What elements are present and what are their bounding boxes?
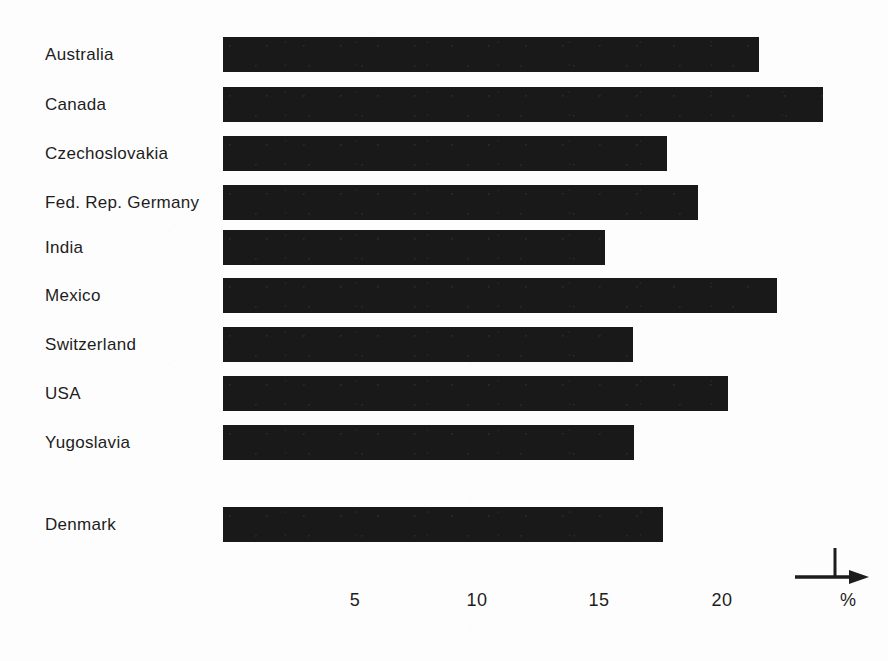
category-label-india: India [45, 230, 83, 265]
category-label-czechoslovakia: Czechoslovakia [45, 136, 168, 171]
chart-row: Czechoslovakia [0, 136, 888, 171]
chart-row: Mexico [0, 278, 888, 313]
x-axis-arrow-icon [793, 546, 875, 590]
bar-usa [223, 376, 728, 411]
bar-india [223, 230, 605, 265]
bar-denmark [223, 507, 663, 542]
x-axis-unit-label: % [828, 590, 868, 611]
category-label-australia: Australia [45, 37, 114, 72]
category-label-canada: Canada [45, 87, 106, 122]
category-label-mexico: Mexico [45, 278, 101, 313]
chart-row: Australia [0, 37, 888, 72]
chart-row: Yugoslavia [0, 425, 888, 460]
category-label-fed-rep-germany: Fed. Rep. Germany [45, 185, 199, 220]
plot-area: Australia Canada Czechoslovakia Fed. Rep… [0, 0, 888, 661]
chart-row: Fed. Rep. Germany [0, 185, 888, 220]
bar-czechoslovakia [223, 136, 667, 171]
x-tick-label-20: 20 [692, 590, 752, 611]
bar-mexico [223, 278, 777, 313]
bar-switzerland [223, 327, 633, 362]
x-tick-label-5: 5 [325, 590, 385, 611]
category-label-switzerland: Switzerland [45, 327, 136, 362]
category-label-yugoslavia: Yugoslavia [45, 425, 130, 460]
bar-canada [223, 87, 823, 122]
chart-row: India [0, 230, 888, 265]
bar-yugoslavia [223, 425, 634, 460]
x-tick-label-15: 15 [569, 590, 629, 611]
chart-row: USA [0, 376, 888, 411]
bar-australia [223, 37, 759, 72]
category-label-denmark: Denmark [45, 507, 116, 542]
x-tick-label-10: 10 [447, 590, 507, 611]
bar-chart-figure: Australia Canada Czechoslovakia Fed. Rep… [0, 0, 888, 661]
chart-row: Canada [0, 87, 888, 122]
chart-row: Denmark [0, 507, 888, 542]
category-label-usa: USA [45, 376, 81, 411]
bar-fed-rep-germany [223, 185, 698, 220]
chart-row: Switzerland [0, 327, 888, 362]
